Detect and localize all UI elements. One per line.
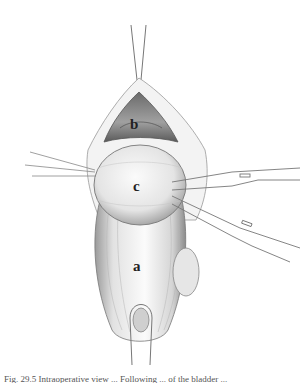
- structure-c: [94, 145, 186, 225]
- side-bulge: [173, 248, 199, 296]
- label-b: b: [130, 116, 138, 133]
- label-a: a: [133, 258, 141, 275]
- label-c: c: [133, 178, 140, 195]
- top-retractor: [131, 25, 146, 80]
- left-forceps: [25, 152, 96, 176]
- surgical-illustration: [0, 0, 302, 370]
- figure-caption: Fig. 29.5 Intraoperative view ... Follow…: [4, 374, 302, 383]
